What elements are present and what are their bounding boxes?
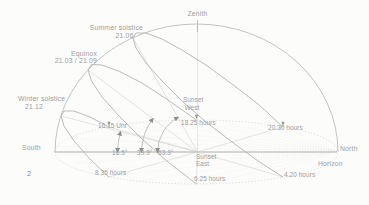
- summer-solstice-date: 21.06: [115, 32, 133, 39]
- altitude-arc-summer: [158, 117, 179, 152]
- summer-sunset-time: 20.30 hours: [268, 124, 303, 131]
- winter-solstice-date: 21.12: [25, 103, 43, 110]
- summer-solstice-label: Summer solstice: [90, 24, 143, 31]
- sunset-east-line2: East: [196, 160, 209, 167]
- sun-path-diagram: Zenith Summer solstice 21.06 Equinox 21.…: [0, 0, 369, 205]
- equinox-sunset-time: 18.25 hours: [181, 119, 216, 126]
- equinox-altitude-angle: 39.9°: [137, 149, 153, 156]
- winter-solstice-label: Winter solstice: [18, 95, 65, 102]
- south-label: South: [22, 144, 41, 151]
- summer-sunrise-time: 4.20 hours: [284, 171, 315, 178]
- equinox-dates: 21.03 / 21.09: [55, 57, 97, 64]
- equinox-sunrise-time: 6.25 hours: [194, 175, 225, 182]
- winter-sunrise-time: 8.35 hours: [95, 169, 126, 176]
- horizon-label: Horizon: [318, 160, 343, 167]
- summer-altitude-angle: 63.3°: [158, 149, 174, 156]
- winter-altitude-angle: 16.5°: [112, 149, 128, 156]
- diagram-canvas: Zenith Summer solstice 21.06 Equinox 21.…: [0, 0, 369, 205]
- winter-sunset-time: 16.15 Uhr: [98, 122, 128, 129]
- sunset-east-line1: Sunset: [196, 153, 217, 160]
- sun-path-winter: [61, 111, 109, 177]
- meridian-arc: [55, 24, 338, 152]
- north-label: North: [340, 145, 358, 152]
- zenith-label: Zenith: [187, 10, 207, 17]
- sunset-west-line1: Sunset: [183, 96, 204, 103]
- sunset-west-line2: West: [185, 104, 200, 111]
- figure-number: 2: [27, 169, 31, 178]
